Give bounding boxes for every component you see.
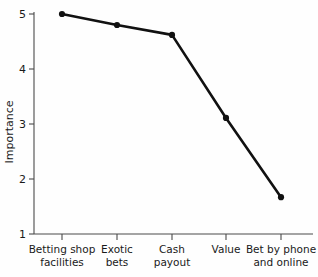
y-tick-label-5: 5 (19, 8, 26, 21)
line-chart-figure: 5 4 3 2 1 Importance Betting shop facili… (0, 0, 318, 277)
x-category-label-3-line1: Value (212, 243, 241, 255)
x-category-label-4-line2: and online (246, 256, 316, 269)
data-point (278, 194, 284, 200)
x-category-label-4: Bet by phone and online (246, 243, 316, 268)
x-category-label-0: Betting shop facilities (29, 243, 96, 268)
data-point (223, 115, 229, 121)
x-category-label-2-line2: payout (154, 256, 191, 269)
data-point (169, 32, 175, 38)
y-axis-label: Importance (3, 100, 16, 163)
x-category-label-0-line2: facilities (29, 256, 96, 269)
x-category-label-1-line1: Exotic (101, 243, 133, 255)
x-category-label-3: Value (212, 243, 241, 256)
x-category-label-2-line1: Cash (159, 243, 185, 255)
data-point (114, 22, 120, 28)
data-series-markers (59, 11, 284, 200)
x-category-label-0-line1: Betting shop (29, 243, 96, 255)
y-tick-label-3: 3 (19, 118, 26, 131)
y-tick-label-1: 1 (19, 228, 26, 241)
data-point (59, 11, 65, 17)
x-category-label-2: Cash payout (154, 243, 191, 268)
y-tick-label-2: 2 (19, 173, 26, 186)
x-category-label-1-line2: bets (101, 256, 133, 269)
x-category-label-1: Exotic bets (101, 243, 133, 268)
data-series-line (62, 14, 281, 197)
chart-plot-area: 5 4 3 2 1 Importance (0, 0, 318, 277)
y-tick-label-4: 4 (19, 63, 26, 76)
x-category-label-4-line1: Bet by phone (246, 243, 316, 255)
